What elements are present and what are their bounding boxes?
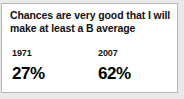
stat-columns: 1971 27% 2007 62% bbox=[2, 48, 177, 85]
stat-column-1971: 1971 27% bbox=[2, 48, 80, 85]
stat-callout-card: Chances are very good that I will make a… bbox=[1, 3, 178, 93]
stat-column-2007: 2007 62% bbox=[80, 48, 175, 85]
stat-value: 27% bbox=[12, 63, 80, 85]
stat-value: 62% bbox=[98, 63, 175, 85]
stat-year-label: 2007 bbox=[98, 48, 175, 59]
stat-year-label: 1971 bbox=[12, 48, 80, 59]
callout-headline: Chances are very good that I will make a… bbox=[10, 9, 174, 35]
